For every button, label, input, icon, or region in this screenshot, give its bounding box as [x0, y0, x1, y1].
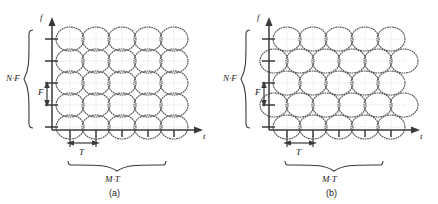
arrow-f-step-head-down [44, 100, 50, 107]
panel-b: f t N·F F T M·T (b) [219, 0, 438, 204]
arrow-f-step-head-down [261, 100, 267, 107]
brace-m-times-t [68, 161, 166, 171]
brace-n-times-f [241, 30, 250, 128]
panel-caption-b: (b) [326, 188, 337, 198]
label-f-step: F [38, 87, 44, 97]
label-t-step: T [79, 147, 84, 157]
axes [52, 24, 196, 130]
t-axis-ticks [70, 130, 174, 137]
t-axis-ticks [287, 130, 391, 137]
t-axis-arrowhead [411, 126, 420, 133]
f-axis-arrowhead [48, 17, 55, 26]
label-n-times-f: N·F [6, 73, 20, 83]
t-axis-arrowhead [194, 126, 203, 133]
brace-m-times-t [285, 161, 383, 171]
gridlines-vertical [70, 24, 174, 130]
axis-label-f: f [257, 12, 260, 22]
label-f-step: F [255, 87, 261, 97]
arrow-f-step-head-up [261, 81, 267, 88]
label-m-times-t: M·T [322, 174, 337, 184]
axis-label-t: t [203, 131, 206, 141]
f-axis-arrowhead [265, 17, 272, 26]
label-n-times-f: N·F [223, 73, 237, 83]
gridlines-horizontal [52, 39, 190, 127]
label-m-times-t: M·T [105, 174, 120, 184]
label-t-step: T [296, 147, 301, 157]
figure-container: f t N·F F T M·T (a) [0, 0, 438, 204]
gridlines-vertical [287, 24, 391, 130]
arrow-f-step-head-up [44, 81, 50, 88]
brace-n-times-f [24, 30, 33, 128]
panel-caption-a: (a) [109, 188, 120, 198]
axis-label-f: f [40, 12, 43, 22]
axis-label-t: t [420, 131, 423, 141]
panel-a: f t N·F F T M·T (a) [0, 0, 219, 204]
